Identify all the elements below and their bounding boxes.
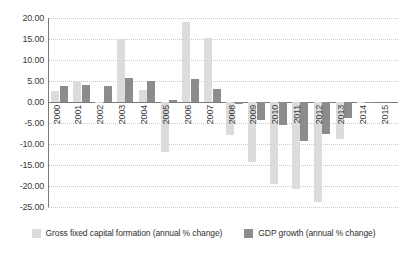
bar-group [114, 18, 136, 207]
legend-swatch-icon [32, 229, 41, 238]
bar-gdp-2002 [104, 86, 112, 102]
bar-group [136, 18, 158, 207]
bar-gdp-2014 [366, 102, 374, 103]
bars-layer [48, 18, 398, 207]
bar-gdp-2011 [300, 102, 308, 141]
bar-gfcf-2006 [182, 22, 190, 102]
y-tick-label: -15.00 [20, 161, 44, 170]
bar-gdp-2003 [125, 78, 133, 102]
bar-group [311, 18, 333, 207]
y-tick-label: 20.00 [22, 14, 44, 23]
gridline [48, 207, 398, 208]
bar-group [376, 18, 398, 207]
bar-group [179, 18, 201, 207]
bar-gdp-2005 [169, 100, 177, 102]
bar-gfcf-2012 [314, 102, 322, 202]
bar-group [70, 18, 92, 207]
bar-gdp-2008 [235, 102, 243, 104]
bar-group [245, 18, 267, 207]
legend-swatch-icon [244, 229, 253, 238]
legend-label: GDP growth (annual % change) [258, 229, 375, 238]
legend-item[interactable]: GDP growth (annual % change) [244, 229, 375, 238]
y-tick-label: -10.00 [20, 140, 44, 149]
bar-gfcf-2003 [117, 39, 125, 102]
bar-gdp-2012 [322, 102, 330, 134]
bar-group [354, 18, 376, 207]
y-tick-label: 15.00 [22, 35, 44, 44]
plot-area: 2000200120022003200420052006200720082009… [48, 18, 398, 207]
bar-group [223, 18, 245, 207]
bar-gdp-2010 [279, 102, 287, 125]
bar-gdp-2007 [213, 89, 221, 102]
y-tick-label: 0.00 [27, 98, 44, 107]
bar-group [92, 18, 114, 207]
bar-gfcf-2011 [292, 102, 300, 189]
bar-gfcf-2004 [139, 90, 147, 102]
bar-chart: 20.0015.0010.005.000.00-5.00-10.00-15.00… [0, 0, 407, 258]
bar-gfcf-2009 [248, 102, 256, 162]
chart-legend: Gross fixed capital formation (annual % … [0, 221, 407, 245]
y-axis: 20.0015.0010.005.000.00-5.00-10.00-15.00… [0, 0, 47, 215]
bar-gfcf-2007 [204, 38, 212, 102]
legend-label: Gross fixed capital formation (annual % … [46, 229, 223, 238]
bar-group [289, 18, 311, 207]
bar-gfcf-2001 [73, 81, 81, 102]
y-tick-label: 10.00 [22, 56, 44, 65]
bar-group [48, 18, 70, 207]
bar-group [201, 18, 223, 207]
plot-wrapper: 20.0015.0010.005.000.00-5.00-10.00-15.00… [0, 0, 407, 215]
bar-gfcf-2005 [161, 102, 169, 152]
y-tick-label: -5.00 [24, 119, 44, 128]
bar-gfcf-2014 [357, 102, 365, 103]
bar-group [332, 18, 354, 207]
bar-group [267, 18, 289, 207]
bar-gdp-2009 [257, 102, 265, 120]
y-tick-label: -25.00 [20, 203, 44, 212]
bar-gdp-2006 [191, 79, 199, 102]
bar-gfcf-2013 [336, 102, 344, 139]
bar-gdp-2001 [82, 85, 90, 102]
y-tick-label: 5.00 [27, 77, 44, 86]
bar-group [157, 18, 179, 207]
bar-gdp-2000 [60, 86, 68, 102]
y-tick-label: -20.00 [20, 182, 44, 191]
bar-gfcf-2000 [51, 91, 59, 102]
legend-item[interactable]: Gross fixed capital formation (annual % … [32, 229, 223, 238]
bar-gfcf-2008 [226, 102, 234, 135]
bar-gdp-2013 [344, 102, 352, 118]
bar-gfcf-2010 [270, 102, 278, 184]
bar-gdp-2004 [147, 81, 155, 102]
